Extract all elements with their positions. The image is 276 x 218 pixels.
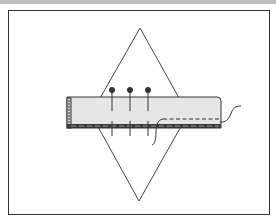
- pin-head-icon: [127, 87, 132, 92]
- pin-head-icon: [145, 87, 150, 92]
- pin-head-icon: [109, 87, 114, 92]
- thread-tail-right: [220, 106, 241, 122]
- sewing-diagram: [0, 0, 276, 218]
- fabric-strip: [67, 97, 221, 128]
